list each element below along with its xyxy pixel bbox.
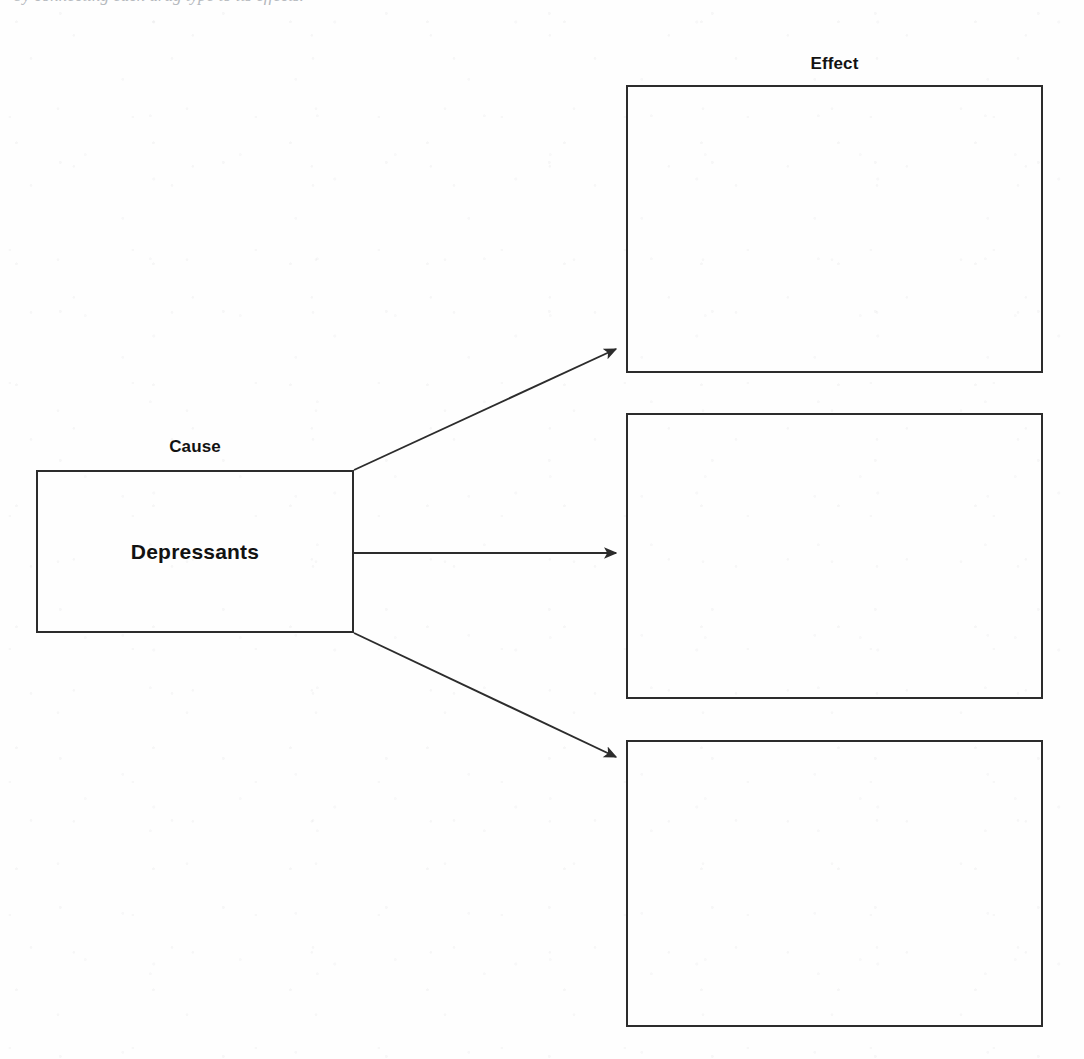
cause-box[interactable]: Depressants (36, 470, 354, 633)
effect-heading: Effect (626, 54, 1043, 74)
worksheet-page: by connecting each drug type to its effe… (0, 0, 1084, 1059)
page-top-cut-off-line: by connecting each drug type to its effe… (14, 0, 574, 6)
arrow-to-effect-3 (354, 633, 616, 757)
effect-box-2[interactable] (626, 413, 1043, 699)
effect-box-3[interactable] (626, 740, 1043, 1027)
cause-heading: Cause (36, 437, 354, 457)
arrow-to-effect-1 (354, 349, 616, 470)
cause-box-label: Depressants (131, 540, 259, 564)
effect-box-1[interactable] (626, 85, 1043, 373)
